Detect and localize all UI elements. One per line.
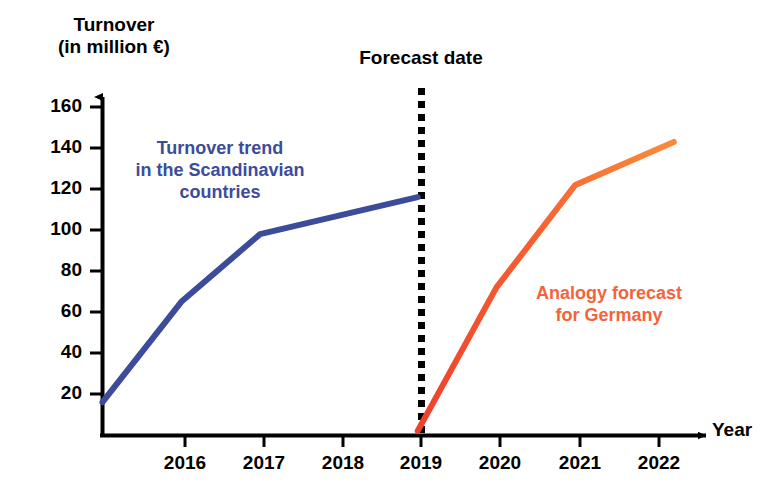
x-tick-label-2019: 2019	[386, 452, 456, 474]
y-tick-label-80: 80	[30, 259, 82, 281]
series-label-scandinavia-line2: in the Scandinavian	[110, 160, 330, 182]
x-tick-label-2021: 2021	[545, 452, 615, 474]
series-label-scandinavia: Turnover trend in the Scandinavian count…	[110, 138, 330, 204]
series-label-germany-line2: for Germany	[494, 305, 724, 327]
y-axis-title: Turnover (in million €)	[58, 14, 170, 59]
y-tick-label-120: 120	[30, 177, 82, 199]
chart-canvas	[0, 0, 784, 491]
series-label-scandinavia-line1: Turnover trend	[110, 138, 330, 160]
turnover-forecast-chart: Turnover (in million €) Year 160 140 120…	[0, 0, 784, 491]
y-tick-label-40: 40	[30, 341, 82, 363]
y-tick-label-20: 20	[30, 382, 82, 404]
x-tick-label-2020: 2020	[465, 452, 535, 474]
x-tick-label-2016: 2016	[150, 452, 220, 474]
forecast-date-label: Forecast date	[331, 47, 511, 69]
y-tick-label-60: 60	[30, 300, 82, 322]
series-label-scandinavia-line3: countries	[110, 182, 330, 204]
y-tick-label-160: 160	[30, 95, 82, 117]
series-label-germany-line1: Analogy forecast	[494, 283, 724, 305]
x-tick-label-2022: 2022	[624, 452, 694, 474]
y-tick-label-140: 140	[30, 136, 82, 158]
series-label-germany: Analogy forecast for Germany	[494, 283, 724, 327]
series-line-scandinavia	[103, 197, 418, 402]
y-tick-label-100: 100	[30, 218, 82, 240]
x-tick-label-2017: 2017	[229, 452, 299, 474]
x-axis	[100, 435, 706, 447]
x-tick-label-2018: 2018	[308, 452, 378, 474]
y-axis-title-line2: (in million €)	[58, 36, 170, 58]
y-axis-title-line1: Turnover	[58, 14, 170, 36]
y-axis	[90, 97, 103, 435]
x-axis-title: Year	[712, 419, 752, 441]
